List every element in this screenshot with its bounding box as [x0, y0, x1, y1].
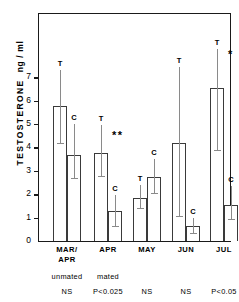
bar-c-1-letter: C [108, 184, 122, 193]
mating-status-1: mated [84, 272, 132, 282]
bar-c-2-letter: C [147, 148, 161, 157]
y-tick-2: 2 [0, 194, 38, 195]
y-tick-label: 1 [26, 212, 31, 223]
y-tick-3: 3 [0, 171, 38, 172]
bar-t-2-error-bar [140, 185, 141, 208]
y-tick-5: 5 [0, 124, 38, 125]
bar-c-3-error-bar [193, 218, 194, 233]
stat-label-4: P<0.05 [198, 287, 239, 297]
bar-t-0-letter: T [53, 59, 67, 68]
y-tick-1: 1 [0, 218, 38, 219]
bar-t-3-letter: T [172, 56, 186, 65]
x-label-1: APR [87, 245, 129, 255]
bar-c-0-letter: C [67, 113, 81, 122]
y-tick-6: 6 [0, 101, 38, 102]
bar-t-1-error-bar [101, 125, 102, 176]
bar-t-1-error-cap [98, 176, 105, 177]
bar-c-0-error-cap [71, 178, 78, 179]
testosterone-bar-chart: TESTOSTERONE ng / ml 01234567 TCTC**TCTC… [0, 0, 239, 302]
bar-t-2-letter: T [133, 174, 147, 183]
y-tick-label: 3 [26, 165, 31, 176]
x-label-0: MAR/ APR [46, 245, 88, 264]
y-tick-label: 2 [26, 188, 31, 199]
y-tick-0: 0 [0, 241, 38, 242]
y-axis-title-units: ng / ml [15, 41, 25, 73]
bar-t-4-error-bar [217, 49, 218, 150]
y-tick-label: 7 [26, 71, 31, 82]
x-axis-labels: MAR/ APRAPRMAYJUNJUL [38, 245, 231, 271]
x-label-4: JUL [203, 245, 239, 255]
y-axis-title-main: TESTOSTERONE [15, 79, 25, 165]
bar-t-0-error-cap [57, 143, 64, 144]
bar-c-3-error-cap [190, 233, 197, 234]
y-tick-label: 0 [26, 235, 31, 246]
x-label-2: MAY [126, 245, 168, 255]
significance-stats-row: NSP<0.025NSNSP<0.05 [0, 287, 239, 299]
bar-t-2-error-cap [137, 208, 144, 209]
y-tick-label: 4 [26, 141, 31, 152]
bar-c-2-error-bar [154, 159, 155, 193]
bar-c-4-error-cap [228, 219, 235, 220]
y-tick-7: 7 [0, 77, 38, 78]
y-tick-4: 4 [0, 147, 38, 148]
y-axis-title: TESTOSTERONE ng / ml [15, 3, 25, 203]
bar-t-3-error-bar [179, 67, 180, 217]
bar-t-1-letter: T [94, 114, 108, 123]
significance-mark-4: * [228, 50, 234, 59]
bar-t-4-letter: T [210, 38, 224, 47]
mating-status-row: unmatedmated [0, 272, 239, 284]
y-tick-label: 5 [26, 118, 31, 129]
bar-c-2-error-cap [151, 193, 158, 194]
bar-c-1-error-bar [115, 195, 116, 225]
significance-mark-1: ** [112, 131, 124, 140]
bar-c-3-letter: C [186, 207, 200, 216]
bar-t-3-error-cap [176, 216, 183, 217]
bar-c-4-error-bar [231, 186, 232, 219]
y-tick-label: 6 [26, 95, 31, 106]
bar-c-0-error-bar [74, 124, 75, 178]
bars-layer: TCTC**TCTCTC* [38, 13, 231, 242]
bar-c-4-letter: C [224, 175, 238, 184]
bar-c-1-error-cap [112, 226, 119, 227]
bar-t-0-error-bar [60, 70, 61, 143]
bar-t-4-error-cap [214, 150, 221, 151]
x-label-3: JUN [165, 245, 207, 255]
